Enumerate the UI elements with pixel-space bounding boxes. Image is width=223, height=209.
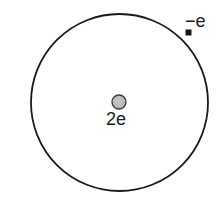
diagram-canvas	[0, 0, 223, 209]
electron-charge-label: −e	[185, 12, 206, 30]
nucleus-group	[112, 95, 126, 109]
atom-diagram-figure: 2e −e	[0, 0, 223, 209]
nucleus-charge-label: 2e	[106, 110, 126, 128]
